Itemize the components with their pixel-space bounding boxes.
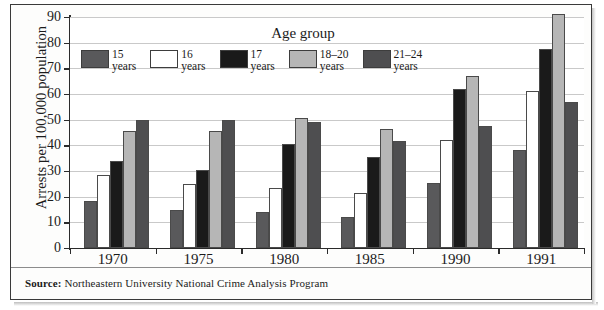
x-axis-tick-mark xyxy=(241,248,242,254)
y-axis-tick-label: 60 xyxy=(17,87,61,101)
bar xyxy=(269,188,282,248)
bar xyxy=(308,122,321,248)
chart-figure: Arrests per 100,000 population 010203040… xyxy=(10,4,592,300)
legend-label-unit: years xyxy=(394,61,423,73)
source-note: Source: Northeastern University National… xyxy=(25,277,328,289)
bar xyxy=(170,210,183,249)
y-axis-tick-mark xyxy=(64,17,70,18)
bar xyxy=(479,126,492,248)
y-axis-tick-label: 70 xyxy=(17,61,61,75)
legend-label-unit: years xyxy=(112,61,136,73)
bar xyxy=(466,76,479,248)
bar xyxy=(110,161,123,248)
bar xyxy=(367,157,380,248)
y-axis-tick-label: 0 xyxy=(17,241,61,255)
bar xyxy=(513,150,526,248)
legend-label: 17years xyxy=(251,49,275,73)
y-axis-tick-label: 90 xyxy=(17,10,61,24)
y-axis-tick-label: 20 xyxy=(17,190,61,204)
bar xyxy=(136,120,149,248)
bar xyxy=(209,131,222,248)
y-axis-tick-mark xyxy=(64,120,70,121)
legend-swatch xyxy=(363,50,391,68)
legend-item: 16years xyxy=(150,49,205,73)
x-axis-tick-mark xyxy=(70,248,71,254)
legend-label: 18–20years xyxy=(320,49,349,73)
source-text: Northeastern University National Crime A… xyxy=(64,277,328,289)
bar xyxy=(453,89,466,248)
x-axis-tick-mark xyxy=(327,248,328,254)
legend-item: 17years xyxy=(220,49,275,73)
legend-item: 18–20years xyxy=(289,49,349,73)
y-axis-tick-mark xyxy=(64,222,70,223)
legend-swatch xyxy=(81,50,109,68)
bar xyxy=(341,217,354,248)
x-axis-tick-mark xyxy=(498,248,499,254)
bar xyxy=(256,212,269,248)
bar xyxy=(427,183,440,248)
y-axis-tick-label: 50 xyxy=(17,113,61,127)
source-label: Source: xyxy=(25,277,62,289)
bar-group xyxy=(427,17,492,248)
bar xyxy=(354,193,367,248)
bar xyxy=(183,184,196,248)
bar xyxy=(552,14,565,248)
bar xyxy=(196,170,209,248)
legend-title: Age group xyxy=(203,25,403,42)
y-axis-tick-mark xyxy=(64,43,70,44)
legend-label: 15years xyxy=(112,49,136,73)
bar xyxy=(123,131,136,248)
legend-swatch xyxy=(220,50,248,68)
y-axis-tick-label: 10 xyxy=(17,215,61,229)
y-axis-tick-mark xyxy=(64,145,70,146)
y-axis-tick-mark xyxy=(64,197,70,198)
bar xyxy=(282,144,295,248)
legend-items: 15years16years17years18–20years21–24year… xyxy=(81,49,422,73)
bar xyxy=(539,49,552,248)
legend-label-unit: years xyxy=(320,61,349,73)
y-axis-tick-mark xyxy=(64,94,70,95)
legend-label-unit: years xyxy=(251,61,275,73)
x-axis-tick-mark xyxy=(156,248,157,254)
legend-swatch xyxy=(150,50,178,68)
bar xyxy=(380,129,393,248)
legend-item: 15years xyxy=(81,49,136,73)
x-axis-tick-mark xyxy=(584,248,585,254)
legend-swatch xyxy=(289,50,317,68)
bar-group xyxy=(513,17,578,248)
bar xyxy=(526,91,539,248)
y-axis-tick-label: 40 xyxy=(17,138,61,152)
y-axis-tick-mark xyxy=(64,171,70,172)
figure-shadow-bottom xyxy=(14,302,598,306)
legend-label: 16years xyxy=(181,49,205,73)
legend-label: 21–24years xyxy=(394,49,423,73)
y-axis-tick-mark xyxy=(64,68,70,69)
x-axis-tick-mark xyxy=(413,248,414,254)
legend-label-unit: years xyxy=(181,61,205,73)
bar xyxy=(440,140,453,248)
bar xyxy=(222,120,235,248)
y-axis-tick-label: 30 xyxy=(17,164,61,178)
legend-item: 21–24years xyxy=(363,49,423,73)
bar xyxy=(565,102,578,248)
bar xyxy=(97,175,110,248)
bar xyxy=(393,141,406,248)
footer-divider xyxy=(11,267,591,268)
x-axis-tick-label: 1991 xyxy=(486,251,596,268)
bar xyxy=(84,201,97,248)
y-axis-tick-label: 80 xyxy=(17,36,61,50)
chart-plot-region: Arrests per 100,000 population 010203040… xyxy=(11,5,593,263)
bar xyxy=(295,118,308,248)
